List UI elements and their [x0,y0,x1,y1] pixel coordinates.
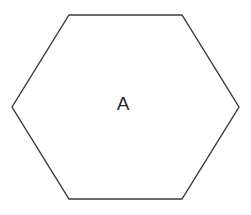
hexagon-diagram: A [0,0,251,215]
diagram-canvas: A [0,0,251,215]
hexagon-label: A [117,93,130,114]
